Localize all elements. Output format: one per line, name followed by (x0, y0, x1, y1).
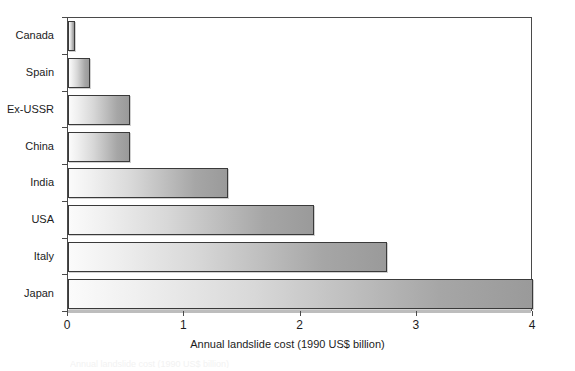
x-tick-label-3: 3 (401, 318, 431, 332)
y-axis-label-canada: Canada (0, 28, 60, 42)
bar-india (68, 168, 228, 198)
bar-italy (68, 242, 387, 272)
x-tick-label-1: 1 (168, 318, 198, 332)
bar-row (68, 21, 75, 51)
landslide-cost-bar-chart: CanadaSpainEx-USSRChinaIndiaUSAItalyJapa… (0, 0, 575, 371)
y-axis-label-china: China (0, 139, 60, 153)
y-axis-label-italy: Italy (0, 249, 60, 263)
bar-row (68, 242, 387, 272)
bar-usa (68, 205, 314, 235)
bar-spain (68, 58, 90, 88)
y-axis-label-japan: Japan (0, 286, 60, 300)
bar-ex-ussr (68, 95, 130, 125)
bar-row (68, 58, 90, 88)
x-tick (416, 311, 417, 316)
x-tick (300, 311, 301, 316)
y-axis-label-usa: USA (0, 212, 60, 226)
x-axis-title: Annual landslide cost (1990 US$ billion) (0, 338, 575, 350)
y-axis-category-labels: CanadaSpainEx-USSRChinaIndiaUSAItalyJapa… (0, 17, 60, 311)
plot-area (67, 17, 532, 311)
bar-row (68, 205, 314, 235)
y-axis-label-spain: Spain (0, 65, 60, 79)
bar-row (68, 132, 130, 162)
bar-japan (68, 279, 533, 309)
y-axis-label-india: India (0, 175, 60, 189)
x-tick-label-2: 2 (285, 318, 315, 332)
x-tick (183, 311, 184, 316)
bar-china (68, 132, 130, 162)
x-tick-label-4: 4 (517, 318, 547, 332)
x-tick (67, 311, 68, 316)
caption-remnant: Annual landslide cost (1990 US$ billion) (70, 359, 500, 368)
bar-row (68, 168, 228, 198)
bar-row (68, 95, 130, 125)
bar-row (68, 279, 533, 309)
bar-canada (68, 21, 75, 51)
x-tick (532, 311, 533, 316)
y-axis-label-ex-ussr: Ex-USSR (0, 102, 60, 116)
x-tick-label-0: 0 (52, 318, 82, 332)
